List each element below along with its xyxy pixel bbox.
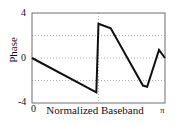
phase-chart-figure: 4 0 -4 0 π Phase Normalized Baseband (0, 0, 176, 126)
x-axis-tick-right: π (160, 105, 165, 115)
y-axis-tick-zero: 0 (21, 53, 26, 63)
y-axis-tick-bottom: -4 (18, 97, 26, 107)
x-axis-label: Normalized Baseband (32, 104, 158, 117)
y-axis-tick-top: 4 (21, 8, 26, 18)
y-axis-label: Phase (7, 20, 19, 80)
